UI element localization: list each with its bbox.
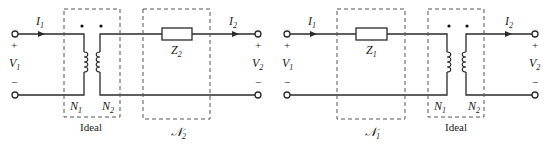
secondary-coil-icon [96,52,100,72]
input-terminal-top [12,31,18,37]
network-box [337,9,405,119]
left-bottom-primary-wire [18,72,84,95]
label-v2: V2 [529,56,540,72]
right-top-secondary-wire [466,34,532,52]
network-box [143,9,210,119]
current-arrow-icon [232,31,239,37]
label-minus: − [284,76,290,88]
label-v1: V1 [9,56,20,72]
label-minus: − [532,76,538,88]
label-network-n2: 𝒩2 [171,125,186,141]
label-i1: I1 [307,14,316,30]
input-terminal-top [284,31,290,37]
circuit-diagram: I1 + V1 − N1 N2 Ideal Z2 𝒩2 I2 + V2 − [0,0,551,146]
label-n2: N2 [101,99,114,115]
output-terminal-top [532,31,538,37]
label-v1: V1 [282,56,293,72]
input-terminal-bottom [284,92,290,98]
left-circuit: I1 + V1 − N1 N2 Ideal Z2 𝒩2 I2 + V2 − [9,9,263,141]
label-minus: − [11,76,17,88]
label-minus: − [255,76,261,88]
impedance-z2 [162,28,192,40]
left-top-primary-wire [18,34,84,52]
label-network-n1: 𝒩1 [365,125,380,141]
label-ideal: Ideal [80,121,102,133]
label-v2: V2 [252,56,263,72]
label-i2: I2 [504,14,513,30]
right-bottom-secondary-wire [466,72,532,95]
primary-coil-icon [84,52,88,72]
label-z1: Z1 [366,43,377,59]
right-top-primary-wire [387,34,447,52]
label-n2: N2 [467,99,480,115]
label-plus: + [532,39,538,51]
output-terminal-bottom [255,92,261,98]
left-bottom-secondary-wire [100,72,255,95]
polarity-dot-icon [99,24,102,27]
primary-coil-icon [447,52,451,72]
label-n1: N1 [69,99,82,115]
polarity-dot-icon [447,24,450,27]
current-arrow-icon [310,31,317,37]
impedance-z1 [356,28,387,40]
right-circuit: I1 + V1 − Z1 𝒩1 N1 N2 Ideal I2 + V2 − [282,9,540,141]
output-terminal-bottom [532,92,538,98]
right-bottom-primary-wire [290,72,447,95]
current-arrow-icon [505,31,512,37]
label-z2: Z2 [171,43,182,59]
label-plus: + [255,39,261,51]
current-arrow-icon [38,31,45,37]
polarity-dot-icon [80,24,83,27]
input-terminal-bottom [12,92,18,98]
label-i2: I2 [228,14,237,30]
left-top-secondary-wire [100,34,162,52]
label-plus: + [284,39,290,51]
label-i1: I1 [35,14,44,30]
label-n1: N1 [433,99,446,115]
polarity-dot-icon [465,24,468,27]
label-ideal: Ideal [445,121,467,133]
secondary-coil-icon [462,52,466,72]
label-plus: + [11,39,17,51]
output-terminal-top [255,31,261,37]
